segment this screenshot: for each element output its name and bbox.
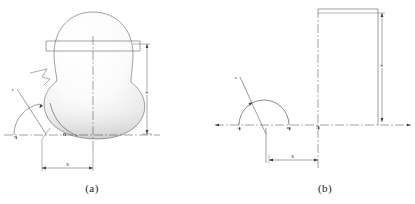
panel-a-base-node-label: A (63, 134, 65, 138)
panel-b-semicircle-arc (239, 100, 289, 125)
panel-b-axis-node-label: O (316, 127, 318, 131)
panel-a-height-arrow-bottom (146, 130, 149, 134)
panel-b-width-arrow-right (314, 159, 318, 162)
panel-a-width-arrow-left (42, 167, 46, 170)
panel-b-height-dimension-label: H (380, 64, 383, 68)
panel-a-height-arrow-top (146, 44, 149, 48)
panel-b-width-arrow-left (269, 159, 273, 162)
technical-drawing-figure: H B a O A H B a C A O (a) (b) (0, 0, 415, 204)
figure-vector-canvas (0, 0, 415, 204)
panel-a-height-dimension-label: H (145, 91, 148, 95)
panel-a-caption: (a) (70, 182, 114, 194)
panel-a-angle-arc (14, 104, 40, 135)
panel-b-height-arrow-bottom (381, 118, 384, 122)
panel-a-angle-arrow (40, 104, 43, 108)
panel-b-caption: (b) (303, 182, 347, 194)
panel-a-width-arrow-right (89, 167, 93, 170)
panel-a-width-dimension-label: B (66, 163, 69, 167)
vessel-body-shading (34, 8, 158, 202)
vessel-spout-detail (30, 69, 50, 85)
panel-b-geometry (215, 9, 411, 170)
panel-b-left-node-label: C (237, 127, 239, 131)
panel-b-width-dimension-label: B (291, 155, 294, 159)
panel-b-mid-node-label: A (287, 127, 289, 131)
panel-b-centerline-arrow-right (407, 124, 411, 127)
panel-a-angle-leader (17, 89, 46, 134)
panel-a-axis-node-label: O (14, 137, 16, 141)
panel-a-geometry (4, 8, 160, 202)
panel-b-angle-leader (240, 77, 266, 134)
panel-b-angle-arrow (249, 102, 252, 106)
panel-b-centerline-arrow-left (215, 124, 219, 127)
panel-b-height-arrow-top (381, 13, 384, 17)
